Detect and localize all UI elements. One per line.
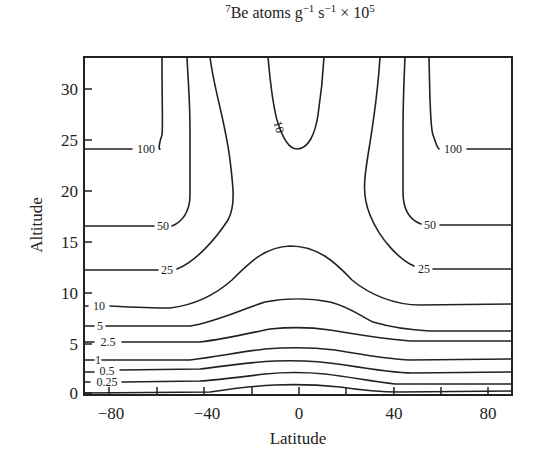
y-axis: 0 5 10 15 20 25 30 Altitude bbox=[27, 80, 92, 403]
contour-label-5: 5 bbox=[97, 319, 103, 333]
y-tick-label: 5 bbox=[70, 335, 79, 354]
contour-0-25 bbox=[84, 373, 512, 385]
contour-chart: 7Be atoms g−1 s−1 × 105 0 5 10 15 20 25 … bbox=[0, 0, 542, 464]
contour-label-10-upper: 10 bbox=[271, 119, 288, 134]
y-tick-label: 25 bbox=[61, 131, 78, 150]
y-tick-label: 0 bbox=[70, 384, 79, 403]
x-tick-label: 40 bbox=[386, 404, 403, 423]
contour-25-left bbox=[84, 57, 233, 270]
contour-label-25: 25 bbox=[418, 262, 430, 276]
y-tick-label: 15 bbox=[61, 233, 78, 252]
x-axis: −80 −40 0 40 80 Latitude bbox=[98, 387, 497, 448]
contour-label-10: 10 bbox=[93, 299, 105, 313]
contour-lines bbox=[84, 57, 512, 393]
contour-label-50: 50 bbox=[157, 219, 169, 233]
x-tick-label: 80 bbox=[480, 404, 497, 423]
contour-0-5 bbox=[84, 361, 512, 373]
y-axis-title: Altitude bbox=[27, 197, 46, 253]
contour-100-right bbox=[429, 57, 512, 149]
contour-10-upper bbox=[268, 57, 324, 149]
contour-1 bbox=[84, 348, 512, 360]
contour-label-100: 100 bbox=[444, 142, 462, 156]
contour-100-left bbox=[84, 57, 162, 149]
contour-label-0-25: 0.25 bbox=[97, 375, 118, 389]
contour-2-5 bbox=[84, 328, 512, 342]
contour-25-right bbox=[365, 57, 513, 269]
y-tick-label: 20 bbox=[61, 182, 78, 201]
contour-label-25: 25 bbox=[161, 263, 173, 277]
x-axis-title: Latitude bbox=[270, 429, 327, 448]
y-tick-label: 30 bbox=[61, 80, 78, 99]
x-tick-label: 0 bbox=[295, 404, 304, 423]
contour-surface bbox=[84, 385, 512, 393]
contour-label-2-5: 2.5 bbox=[101, 335, 116, 349]
contour-label-100: 100 bbox=[137, 142, 155, 156]
chart-title: 7Be atoms g−1 s−1 × 105 bbox=[225, 2, 375, 22]
x-tick-label: −40 bbox=[194, 404, 221, 423]
y-tick-label: 10 bbox=[61, 284, 78, 303]
contour-5 bbox=[84, 299, 512, 331]
x-tick-label: −80 bbox=[98, 404, 125, 423]
contour-label-50: 50 bbox=[424, 218, 436, 232]
contour-50-right bbox=[403, 57, 512, 225]
